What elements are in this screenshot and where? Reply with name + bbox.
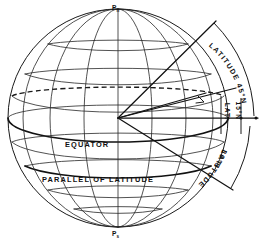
latitude-45n-label: LATITUDE 45°N (207, 42, 248, 106)
labels-group: Pn Ps EQUATOR PARALLEL OF LATITUDE LATIT… (42, 4, 248, 239)
south-pole-label: Ps (112, 230, 120, 239)
latitude-15n-value: 15°N (235, 102, 242, 120)
latitude-globe-figure: Pn Ps EQUATOR PARALLEL OF LATITUDE LATIT… (0, 0, 265, 243)
arc-30s (231, 126, 250, 188)
north-pole-label: Pn (112, 4, 120, 13)
equator-label: EQUATOR (65, 140, 109, 149)
latitude-15n-label: LAT. (224, 103, 231, 120)
parallel-of-latitude-label: PARALLEL OF LATITUDE (42, 175, 154, 184)
globe-diagram-svg: Pn Ps EQUATOR PARALLEL OF LATITUDE LATIT… (0, 0, 265, 243)
